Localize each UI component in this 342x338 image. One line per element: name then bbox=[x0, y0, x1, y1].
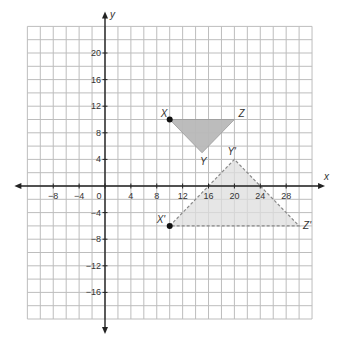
y-tick-label: 12 bbox=[91, 101, 101, 111]
x-tick-label: 16 bbox=[204, 191, 214, 201]
x-tick-label: 12 bbox=[178, 191, 188, 201]
x-axis-arrow-left-icon bbox=[14, 183, 21, 189]
y-tick-label: 20 bbox=[91, 48, 101, 58]
vertex-label: X bbox=[160, 108, 168, 119]
x-axis-arrow-right-icon bbox=[318, 183, 325, 189]
vertex-label: X' bbox=[156, 214, 167, 225]
y-tick-label: 4 bbox=[96, 154, 101, 164]
x-tick-label: −4 bbox=[74, 191, 84, 201]
y-tick-label: −8 bbox=[91, 234, 101, 244]
x-tick-label: 20 bbox=[229, 191, 239, 201]
triangle-xyz bbox=[170, 120, 235, 153]
x-tick-label: 8 bbox=[154, 191, 159, 201]
x-axis-label: x bbox=[323, 171, 330, 182]
x-tick-label: 24 bbox=[255, 191, 265, 201]
x-tick-label: 0 bbox=[96, 191, 101, 201]
y-tick-label: 16 bbox=[91, 75, 101, 85]
y-axis-arrow-up-icon bbox=[102, 11, 108, 18]
point-marker bbox=[167, 223, 173, 229]
y-tick-label: −4 bbox=[91, 208, 101, 218]
coordinate-plane: xy−8−4048121620242820161284−4−8−12−16XYZ… bbox=[0, 0, 342, 338]
vertex-label: Y' bbox=[227, 146, 237, 157]
y-axis-label: y bbox=[109, 9, 116, 20]
y-tick-label: 8 bbox=[96, 128, 101, 138]
x-tick-label: 4 bbox=[128, 191, 133, 201]
vertex-label: Z bbox=[237, 108, 245, 119]
x-tick-label: 28 bbox=[281, 191, 291, 201]
point-marker bbox=[167, 117, 173, 123]
y-tick-label: −16 bbox=[86, 287, 101, 297]
vertex-label: Y bbox=[200, 156, 208, 167]
y-axis-arrow-down-icon bbox=[102, 327, 108, 334]
vertex-label: Z' bbox=[302, 220, 312, 231]
x-tick-label: −8 bbox=[48, 191, 58, 201]
y-tick-label: −12 bbox=[86, 261, 101, 271]
